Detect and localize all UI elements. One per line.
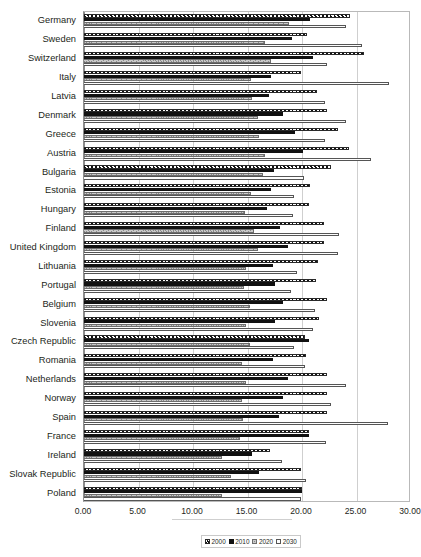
bar-portugal-2010 — [84, 282, 275, 285]
legend-item-2010[interactable]: 2010 — [229, 538, 250, 545]
bar-portugal-2000 — [84, 279, 316, 282]
x-tick-15.00: 15.00 — [236, 506, 258, 516]
bar-spain-2030 — [84, 422, 388, 425]
bar-bulgaria-2010 — [84, 169, 274, 172]
bar-slovak-republic-2030 — [84, 479, 306, 482]
category-label-sweden: Sweden — [0, 34, 79, 44]
bar-group — [84, 239, 409, 258]
bar-belgium-2030 — [84, 309, 315, 312]
bar-italy-2000 — [84, 71, 301, 74]
bar-france-2000 — [84, 430, 309, 433]
legend-swatch-icon-2020 — [252, 539, 257, 544]
bar-latvia-2020 — [84, 97, 252, 100]
bar-finland-2010 — [84, 226, 280, 229]
bar-group — [84, 484, 409, 502]
category-label-hungary: Hungary — [0, 204, 79, 214]
bar-hungary-2000 — [84, 203, 309, 206]
bar-norway-2000 — [84, 392, 327, 395]
bar-switzerland-2020 — [84, 59, 271, 62]
bar-sweden-2000 — [84, 33, 307, 36]
bar-finland-2000 — [84, 222, 324, 225]
legend-item-2030[interactable]: 2030 — [276, 538, 297, 545]
bar-germany-2020 — [84, 22, 289, 25]
bar-group — [84, 390, 409, 409]
bar-austria-2000 — [84, 147, 349, 150]
legend-swatch-icon-2010 — [229, 539, 234, 544]
bar-greece-2020 — [84, 135, 259, 138]
category-label-netherlands: Netherlands — [0, 374, 79, 384]
category-label-italy: Italy — [0, 72, 79, 82]
bar-group — [84, 276, 409, 295]
category-label-latvia: Latvia — [0, 91, 79, 101]
bar-netherlands-2000 — [84, 373, 327, 376]
bar-poland-2000 — [84, 487, 302, 490]
bar-group — [84, 88, 409, 107]
category-label-norway: Norway — [0, 393, 79, 403]
bar-belgium-2010 — [84, 301, 283, 304]
bar-slovenia-2000 — [84, 317, 319, 320]
bar-switzerland-2000 — [84, 52, 364, 55]
bar-poland-2020 — [84, 494, 222, 497]
bar-poland-2030 — [84, 497, 301, 500]
bar-germany-2030 — [84, 25, 346, 28]
bar-spain-2010 — [84, 415, 279, 418]
bar-poland-2010 — [84, 490, 302, 493]
bar-united-kingdom-2010 — [84, 245, 288, 248]
x-axis-tick-labels: 0.005.0010.0015.0020.0025.0030.00 — [0, 506, 420, 520]
legend-item-2020[interactable]: 2020 — [252, 538, 273, 545]
bar-romania-2010 — [84, 358, 273, 361]
bar-greece-2010 — [84, 131, 295, 134]
bar-czech-republic-2000 — [84, 335, 305, 338]
category-label-romania: Romania — [0, 355, 79, 365]
bar-sweden-2030 — [84, 44, 362, 47]
bar-austria-2010 — [84, 150, 303, 153]
bar-lithuania-2010 — [84, 264, 273, 267]
bar-ireland-2000 — [84, 449, 270, 452]
bar-czech-republic-2010 — [84, 339, 309, 342]
bar-group — [84, 258, 409, 277]
legend-label-2030: 2030 — [283, 538, 297, 545]
bar-netherlands-2030 — [84, 384, 346, 387]
bar-rows — [84, 12, 409, 501]
bar-group — [84, 371, 409, 390]
bar-austria-2020 — [84, 154, 265, 157]
bar-latvia-2030 — [84, 101, 325, 104]
bar-lithuania-2030 — [84, 271, 297, 274]
bar-germany-2000 — [84, 14, 350, 17]
bar-estonia-2000 — [84, 184, 310, 187]
bar-italy-2030 — [84, 82, 389, 85]
bar-hungary-2020 — [84, 211, 245, 214]
bar-group — [84, 144, 409, 163]
bar-france-2020 — [84, 437, 240, 440]
bar-group — [84, 409, 409, 428]
bar-bulgaria-2020 — [84, 173, 263, 176]
bar-ireland-2020 — [84, 456, 222, 459]
bar-group — [84, 201, 409, 220]
bar-slovak-republic-2000 — [84, 468, 301, 471]
bar-czech-republic-2020 — [84, 343, 250, 346]
bar-sweden-2020 — [84, 41, 265, 44]
bar-hungary-2030 — [84, 214, 293, 217]
bar-group — [84, 163, 409, 182]
bar-netherlands-2020 — [84, 381, 246, 384]
category-label-lithuania: Lithuania — [0, 261, 79, 271]
bar-latvia-2010 — [84, 94, 269, 97]
bar-germany-2010 — [84, 18, 310, 21]
category-label-france: France — [0, 431, 79, 441]
bar-italy-2010 — [84, 75, 271, 78]
bar-switzerland-2010 — [84, 56, 313, 59]
category-axis-labels: GermanySwedenSwitzerlandItalyLatviaDenma… — [0, 11, 79, 502]
bar-group — [84, 352, 409, 371]
bar-france-2030 — [84, 441, 326, 444]
bar-denmark-2010 — [84, 112, 283, 115]
bar-denmark-2020 — [84, 116, 258, 119]
bar-austria-2030 — [84, 158, 371, 161]
x-tick-20.00: 20.00 — [290, 506, 312, 516]
legend-item-2000[interactable]: 2000 — [205, 538, 226, 545]
bar-norway-2010 — [84, 396, 283, 399]
category-label-czech-republic: Czech Republic — [0, 336, 79, 346]
bar-group — [84, 31, 409, 50]
bar-belgium-2000 — [84, 298, 327, 301]
bar-group — [84, 69, 409, 88]
category-label-bulgaria: Bulgaria — [0, 167, 79, 177]
